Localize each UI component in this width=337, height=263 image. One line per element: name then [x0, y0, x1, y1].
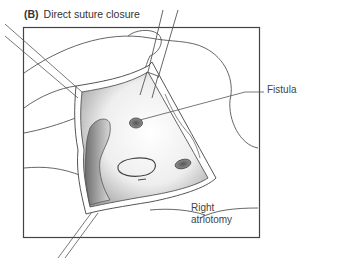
- surgical-illustration: [0, 0, 337, 263]
- label-atriotomy-line1: Right: [191, 202, 232, 214]
- label-atriotomy-line2: atriotomy: [191, 214, 232, 226]
- label-fistula: Fistula: [267, 84, 296, 96]
- label-right-atriotomy: Right atriotomy: [191, 202, 232, 226]
